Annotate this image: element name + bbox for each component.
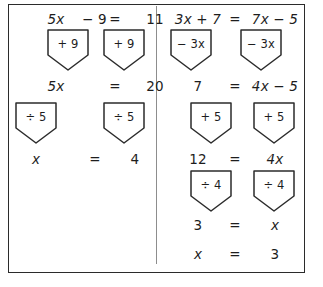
left-row2-equals: = xyxy=(104,77,126,95)
right-row2-equals: = xyxy=(224,77,246,95)
right-operation-plate-2-lhs-label: + 5 xyxy=(190,110,232,124)
right-equation-row-1: 3x + 7=7x − 5 xyxy=(172,10,304,28)
left-operation-plate-2-lhs-label: ÷ 5 xyxy=(15,110,57,124)
right-row1-rhs: 7x − 5 xyxy=(246,10,304,28)
left-equation-row-1: 5x− 9=11 xyxy=(30,10,184,28)
right-row3-lhs: 12 xyxy=(172,150,224,168)
left-operation-plate-1-rhs-label: + 9 xyxy=(103,37,145,51)
left-row3-rhs: 4 xyxy=(106,150,164,168)
right-row3-rhs: 4x xyxy=(246,150,304,168)
right-row5-rhs: 3 xyxy=(246,245,304,263)
right-operation-plate-2-lhs[interactable]: + 5 xyxy=(190,102,232,144)
left-operation-plate-1-lhs[interactable]: + 9 xyxy=(47,29,89,71)
worksheet-page: 5x− 9=11 + 9 + 9 5x=20 ÷ 5 xyxy=(0,0,323,287)
right-operation-plate-1-rhs[interactable]: − 3x xyxy=(240,29,282,71)
left-operation-plate-2-lhs[interactable]: ÷ 5 xyxy=(15,102,57,144)
right-operation-plate-2-rhs-label: + 5 xyxy=(253,110,295,124)
left-equation-row-3: x=4 xyxy=(10,150,164,168)
right-operation-plate-2-rhs[interactable]: + 5 xyxy=(253,102,295,144)
right-operation-plate-1-lhs[interactable]: − 3x xyxy=(170,29,212,71)
right-row4-equals: = xyxy=(224,216,246,234)
right-row2-lhs: 7 xyxy=(172,77,224,95)
left-operation-plate-1-lhs-label: + 9 xyxy=(47,37,89,51)
left-row1-operator: − 9 xyxy=(82,10,104,28)
left-row3-lhs: x xyxy=(10,150,62,168)
right-operation-plate-1-rhs-label: − 3x xyxy=(240,37,282,51)
left-row1-lhs: 5x xyxy=(30,10,82,28)
right-operation-plate-1-lhs-label: − 3x xyxy=(170,37,212,51)
right-row5-lhs: x xyxy=(172,245,224,263)
right-operation-plate-3-lhs-label: ÷ 4 xyxy=(190,178,232,192)
right-row1-lhs: 3x + 7 xyxy=(172,10,224,28)
right-operation-plate-3-lhs[interactable]: ÷ 4 xyxy=(190,170,232,212)
right-row1-equals: = xyxy=(224,10,246,28)
right-row4-lhs: 3 xyxy=(172,216,224,234)
right-row4-rhs: x xyxy=(246,216,304,234)
left-operation-plate-2-rhs[interactable]: ÷ 5 xyxy=(103,102,145,144)
left-row3-equals: = xyxy=(84,150,106,168)
right-row5-equals: = xyxy=(224,245,246,263)
right-row3-equals: = xyxy=(224,150,246,168)
right-equation-row-3: 12=4x xyxy=(172,150,304,168)
right-equation-row-5: x=3 xyxy=(172,245,304,263)
right-operation-plate-3-rhs-label: ÷ 4 xyxy=(253,178,295,192)
right-equation-row-2: 7=4x − 5 xyxy=(172,77,304,95)
column-divider xyxy=(156,6,157,264)
right-row2-rhs: 4x − 5 xyxy=(246,77,304,95)
left-equation-row-2: 5x=20 xyxy=(30,77,184,95)
left-operation-plate-2-rhs-label: ÷ 5 xyxy=(103,110,145,124)
left-row1-equals: = xyxy=(104,10,126,28)
left-row2-lhs: 5x xyxy=(30,77,82,95)
right-operation-plate-3-rhs[interactable]: ÷ 4 xyxy=(253,170,295,212)
right-equation-row-4: 3=x xyxy=(172,216,304,234)
left-operation-plate-1-rhs[interactable]: + 9 xyxy=(103,29,145,71)
